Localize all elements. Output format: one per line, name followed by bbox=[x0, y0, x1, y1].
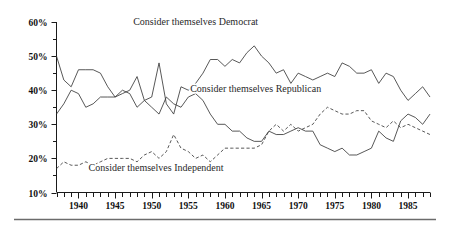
series-line-consider-themselves-independent bbox=[57, 107, 431, 168]
x-axis: 1940194519501955196019651970197519801985 bbox=[57, 193, 431, 211]
y-tick-label: 60% bbox=[29, 18, 48, 28]
y-tick-labels: 10%20%30%40%50%60% bbox=[29, 18, 48, 199]
y-tick-marks bbox=[52, 23, 57, 194]
x-tick-label: 1970 bbox=[289, 201, 308, 211]
x-tick-label: 1950 bbox=[142, 201, 161, 211]
chart-canvas: 10%20%30%40%50%60% 194019451950195519601… bbox=[0, 0, 450, 230]
series-line-consider-themselves-republican bbox=[57, 90, 431, 155]
x-tick-label: 1940 bbox=[69, 201, 88, 211]
x-tick-label: 1980 bbox=[362, 201, 381, 211]
y-tick-label: 40% bbox=[29, 86, 48, 96]
series-annotations: Consider themselves DemocratConsider the… bbox=[89, 16, 322, 173]
y-tick-label: 50% bbox=[29, 52, 48, 62]
x-tick-label: 1945 bbox=[106, 201, 125, 211]
y-tick-label: 10% bbox=[29, 189, 48, 199]
x-tick-labels: 1940194519501955196019651970197519801985 bbox=[69, 201, 418, 211]
series-line-consider-themselves-democrat bbox=[57, 46, 431, 114]
independent-label: Consider themselves Independent bbox=[89, 162, 224, 173]
x-tick-label: 1955 bbox=[179, 201, 198, 211]
x-tick-label: 1975 bbox=[325, 201, 344, 211]
republican-label: Consider themselves Republican bbox=[190, 83, 321, 94]
democrat-label: Consider themselves Democrat bbox=[133, 16, 258, 27]
x-tick-label: 1985 bbox=[399, 201, 418, 211]
y-tick-label: 30% bbox=[29, 120, 48, 130]
x-tick-label: 1965 bbox=[252, 201, 271, 211]
y-tick-label: 20% bbox=[29, 154, 48, 164]
x-tick-marks bbox=[58, 193, 431, 199]
party-identification-chart: 10%20%30%40%50%60% 194019451950195519601… bbox=[0, 0, 450, 230]
data-series-group bbox=[57, 46, 431, 169]
y-axis: 10%20%30%40%50%60% bbox=[29, 18, 57, 199]
x-tick-label: 1960 bbox=[215, 201, 234, 211]
